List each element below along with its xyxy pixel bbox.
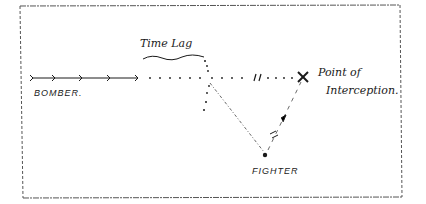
- fighter-label: FIGHTER: [252, 166, 299, 176]
- interception-diagram: Time Lag Point of Interception. FIGHTER …: [0, 0, 426, 204]
- equal-distance-ticks-bomber: [254, 74, 261, 81]
- bomber-track-dotted: [149, 77, 293, 79]
- bomber-track-arrows: [30, 75, 138, 81]
- time-lag-label: Time Lag: [140, 37, 192, 50]
- bomber-label: BOMBER.: [34, 88, 83, 98]
- point-of-interception-label-line1: Point of: [317, 66, 363, 79]
- fighter-reference-line: [210, 83, 264, 152]
- time-lag-underline: [143, 55, 204, 60]
- frame: [20, 5, 402, 198]
- point-of-interception-label-line2: Interception.: [325, 84, 398, 97]
- fighter-position-dot: [263, 153, 267, 157]
- time-lag-drop-line: [203, 60, 210, 111]
- interception-x-mark: [298, 72, 308, 82]
- equal-distance-ticks-fighter: [270, 115, 286, 138]
